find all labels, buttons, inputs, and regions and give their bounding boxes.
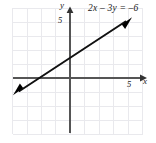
x-axis-tick-label-5: 5 (127, 79, 131, 89)
axes (13, 13, 140, 133)
equation-text: 2x – 3y = –6 (88, 3, 139, 13)
y-axis-arrow (67, 7, 74, 14)
grid-lines (13, 8, 143, 134)
x-axis-label: x (143, 76, 147, 86)
y-axis-label: y (60, 0, 64, 10)
axis-arrowheads (67, 7, 147, 82)
equation-label: 2x – 3y = –6 (88, 3, 139, 13)
y-axis-tick-label-5: 5 (58, 15, 62, 25)
graph-canvas (0, 0, 156, 143)
coordinate-plane-graph: 2x – 3y = –6 y x 5 5 (0, 0, 156, 143)
